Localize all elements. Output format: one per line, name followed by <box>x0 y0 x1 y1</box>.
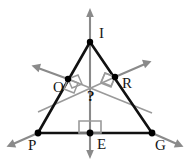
point-O <box>65 76 71 82</box>
side-IG <box>90 42 152 133</box>
point-P <box>35 130 42 137</box>
circumcenter-query-label: ? <box>87 89 95 104</box>
label-E: E <box>97 137 106 152</box>
label-R: R <box>122 76 132 91</box>
point-I <box>87 39 93 45</box>
point-G <box>149 130 156 137</box>
label-I: I <box>99 26 104 41</box>
label-P: P <box>28 138 36 153</box>
point-E <box>87 130 94 137</box>
label-O: O <box>53 80 64 95</box>
geometry-figure: I O R P E G ? <box>0 0 190 162</box>
label-G: G <box>155 138 166 153</box>
point-R <box>112 74 118 80</box>
